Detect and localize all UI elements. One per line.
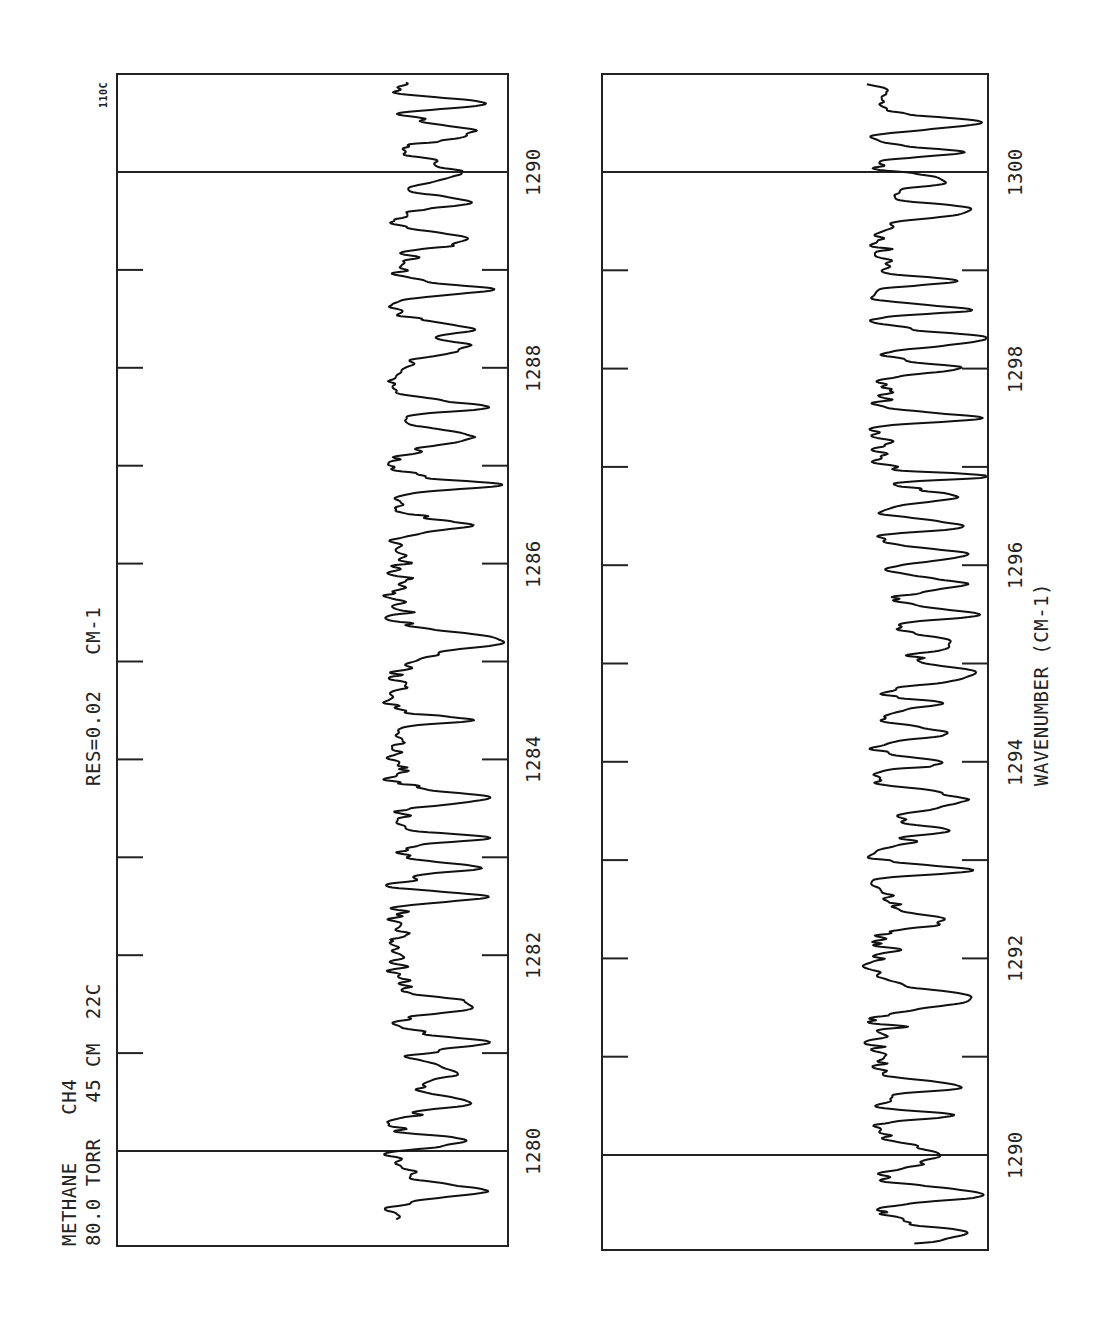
resolution-label: RES=0.02 CM-1 <box>82 607 104 786</box>
tick-label: 1286 <box>522 540 544 588</box>
sample-title: METHANE CH4 <box>58 1079 80 1246</box>
tick-label: 1290 <box>1004 1131 1026 1179</box>
spectrum-trace <box>383 83 504 1220</box>
tick-label: 1298 <box>1004 345 1026 393</box>
tick-label: 1296 <box>1004 541 1026 589</box>
tick-label: 1294 <box>1004 738 1026 786</box>
tick-label: 1292 <box>1004 935 1026 983</box>
spectrum-plot <box>0 0 1113 1331</box>
sample-conditions: 80.0 TORR 45 CM 22C <box>82 983 104 1246</box>
spectrum-panel-2 <box>602 74 988 1250</box>
tick-label: 1280 <box>522 1127 544 1175</box>
tick-label: 1282 <box>522 931 544 979</box>
x-axis-label: WAVENUMBER (CM-1) <box>1030 583 1052 786</box>
spectrum-panel-1 <box>117 74 508 1246</box>
tick-label: 1288 <box>522 344 544 392</box>
tick-label: 1290 <box>522 148 544 196</box>
tick-label: 1284 <box>522 736 544 784</box>
corner-label: 110C <box>98 82 109 108</box>
tick-label: 1300 <box>1004 148 1026 196</box>
